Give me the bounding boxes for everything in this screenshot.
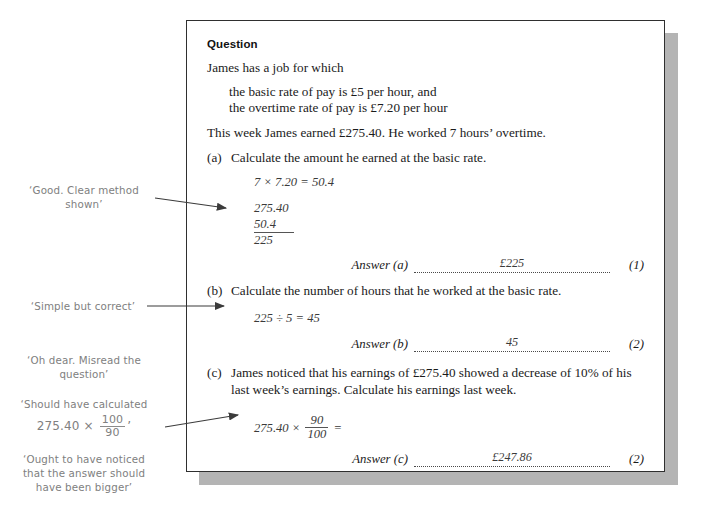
annotation-leader-arrows (0, 0, 721, 510)
screenshot-root: Question James has a job for which the b… (0, 0, 721, 510)
leader-arrow-part-c (165, 415, 238, 427)
leader-arrow-part-a (155, 198, 226, 208)
